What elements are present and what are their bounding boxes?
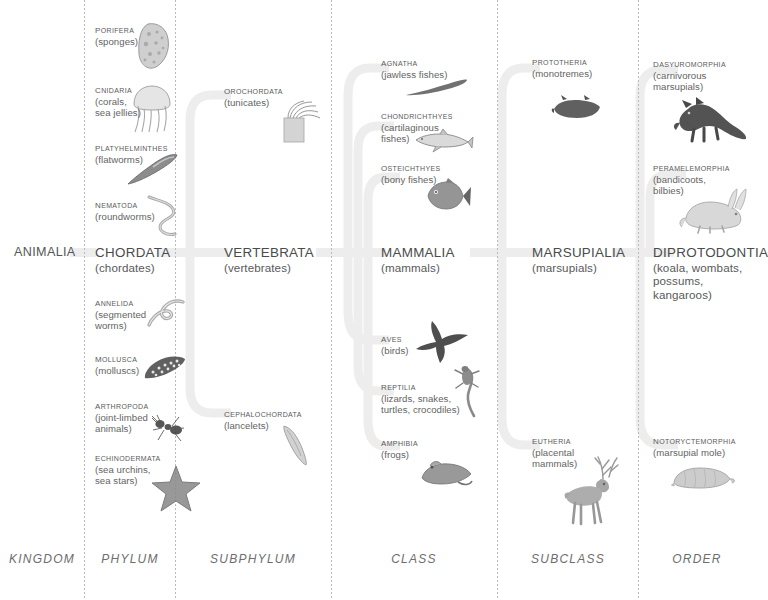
taxon-animalia[interactable]: ANIMALIA xyxy=(14,245,76,260)
taxon-name: PROTOTHERIA xyxy=(532,54,592,68)
taxon-common-name: (chordates) xyxy=(95,261,171,275)
taxon-amphibia[interactable]: AMPHIBIA(frogs) xyxy=(381,435,418,460)
taxon-common-name: (joint-limbed xyxy=(95,412,148,423)
taxon-common-name: (flatworms) xyxy=(95,154,168,165)
taxon-chondrichthyes[interactable]: CHONDRICHTHYES(cartilaginousfishes) xyxy=(381,108,453,144)
taxon-common-name: animals) xyxy=(95,423,148,434)
taxon-name: DIPROTODONTIA xyxy=(653,245,768,261)
taxon-dasyuromorphia[interactable]: DASYUROMORPHIA(carnivorousmarsupials) xyxy=(653,56,726,92)
taxon-common-name: (marsupials) xyxy=(532,261,625,275)
taxon-name: ANNELIDA xyxy=(95,295,146,309)
taxon-common-name: (frogs) xyxy=(381,449,418,460)
taxon-common-name: (carnivorous xyxy=(653,70,726,81)
taxon-common-name: (bony fishes) xyxy=(381,174,440,185)
taxon-common-name: marsupials) xyxy=(653,81,726,92)
taxon-name: ARTHROPODA xyxy=(95,398,148,412)
taxon-name: REPTILIA xyxy=(381,379,460,393)
taxon-name: MARSUPIALIA xyxy=(532,245,625,261)
taxon-common-name: (koala, wombats, xyxy=(653,261,768,275)
taxon-chordata[interactable]: CHORDATA(chordates) xyxy=(95,245,171,274)
taxon-common-name: (sea urchins, xyxy=(95,464,161,475)
taxon-name: VERTEBRATA xyxy=(224,245,314,261)
taxon-name: OSTEICHTHYES xyxy=(381,160,440,174)
taxon-platyhelminthes[interactable]: PLATYHELMINTHES(flatworms) xyxy=(95,140,168,165)
taxon-notoryctemorphia[interactable]: NOTORYCTEMORPHIA(marsupial mole) xyxy=(653,433,736,458)
taxon-name: OROCHORDATA xyxy=(224,83,283,97)
taxon-name: AVES xyxy=(381,331,409,345)
taxon-mollusca[interactable]: MOLLUSCA(molluscs) xyxy=(95,351,139,376)
taxon-name: EUTHERIA xyxy=(532,433,577,447)
taxon-common-name: (birds) xyxy=(381,345,409,356)
taxon-name: CNIDARIA xyxy=(95,82,141,96)
taxon-marsupialia[interactable]: MARSUPIALIA(marsupials) xyxy=(532,245,625,274)
taxon-common-name: (bandicoots, xyxy=(653,174,730,185)
taxon-name: NEMATODA xyxy=(95,197,155,211)
taxon-common-name: worms) xyxy=(95,320,146,331)
taxon-name: NOTORYCTEMORPHIA xyxy=(653,433,736,447)
taxon-common-name: (jawless fishes) xyxy=(381,69,447,80)
taxon-common-name: (placental xyxy=(532,447,577,458)
taxon-common-name: (lancelets) xyxy=(224,420,302,431)
taxon-reptilia[interactable]: REPTILIA(lizards, snakes,turtles, crocod… xyxy=(381,379,460,415)
taxon-common-name: (molluscs) xyxy=(95,365,139,376)
taxon-name: MOLLUSCA xyxy=(95,351,139,365)
taxon-echinodermata[interactable]: ECHINODERMATA(sea urchins,sea stars) xyxy=(95,450,161,486)
taxon-name: CHONDRICHTHYES xyxy=(381,108,453,122)
taxon-nematoda[interactable]: NEMATODA(roundworms) xyxy=(95,197,155,222)
taxon-name: ANIMALIA xyxy=(14,245,76,260)
taxon-common-name: (sponges) xyxy=(95,36,138,47)
taxon-common-name: (vertebrates) xyxy=(224,261,314,275)
taxon-name: MAMMALIA xyxy=(381,245,455,261)
taxon-name: DASYUROMORPHIA xyxy=(653,56,726,70)
taxon-common-name: (corals, xyxy=(95,96,141,107)
taxon-name: PORIFERA xyxy=(95,22,138,36)
taxon-name: PLATYHELMINTHES xyxy=(95,140,168,154)
taxon-common-name: sea jellies) xyxy=(95,107,141,118)
taxon-name: CEPHALOCHORDATA xyxy=(224,406,302,420)
taxon-annelida[interactable]: ANNELIDA(segmentedworms) xyxy=(95,295,146,331)
taxon-name: AGNATHA xyxy=(381,55,447,69)
taxon-common-name: fishes) xyxy=(381,133,453,144)
taxon-common-name: (segmented xyxy=(95,309,146,320)
taxon-common-name: (monotremes) xyxy=(532,68,592,79)
taxon-common-name: sea stars) xyxy=(95,475,161,486)
taxon-agnatha[interactable]: AGNATHA(jawless fishes) xyxy=(381,55,447,80)
taxon-common-name: possums, xyxy=(653,274,768,288)
taxon-common-name: (cartilaginous xyxy=(381,122,453,133)
taxon-name: PERAMELEMORPHIA xyxy=(653,160,730,174)
taxon-mammalia[interactable]: MAMMALIA(mammals) xyxy=(381,245,455,274)
taxon-name: ECHINODERMATA xyxy=(95,450,161,464)
taxon-eutheria[interactable]: EUTHERIA(placentalmammals) xyxy=(532,433,577,469)
taxon-porifera[interactable]: PORIFERA(sponges) xyxy=(95,22,138,47)
taxon-cnidaria[interactable]: CNIDARIA(corals,sea jellies) xyxy=(95,82,141,118)
taxon-common-name: turtles, crocodiles) xyxy=(381,404,460,415)
taxon-name: CHORDATA xyxy=(95,245,171,261)
taxon-common-name: (tunicates) xyxy=(224,97,283,108)
taxon-common-name: kangaroos) xyxy=(653,288,768,302)
taxon-common-name: mammals) xyxy=(532,458,577,469)
taxon-orochordata[interactable]: OROCHORDATA(tunicates) xyxy=(224,83,283,108)
taxon-common-name: (lizards, snakes, xyxy=(381,393,460,404)
taxon-common-name: (marsupial mole) xyxy=(653,447,736,458)
taxon-arthropoda[interactable]: ARTHROPODA(joint-limbedanimals) xyxy=(95,398,148,434)
taxon-name: AMPHIBIA xyxy=(381,435,418,449)
taxon-common-name: bilbies) xyxy=(653,185,730,196)
taxon-common-name: (roundworms) xyxy=(95,211,155,222)
taxon-osteichthyes[interactable]: OSTEICHTHYES(bony fishes) xyxy=(381,160,440,185)
taxon-common-name: (mammals) xyxy=(381,261,455,275)
taxon-diprotodontia[interactable]: DIPROTODONTIA(koala, wombats,possums,kan… xyxy=(653,245,768,302)
taxon-vertebrata[interactable]: VERTEBRATA(vertebrates) xyxy=(224,245,314,274)
taxon-aves[interactable]: AVES(birds) xyxy=(381,331,409,356)
taxon-cephalochordata[interactable]: CEPHALOCHORDATA(lancelets) xyxy=(224,406,302,431)
taxon-prototheria[interactable]: PROTOTHERIA(monotremes) xyxy=(532,54,592,79)
taxon-peramelemorphia[interactable]: PERAMELEMORPHIA(bandicoots,bilbies) xyxy=(653,160,730,196)
